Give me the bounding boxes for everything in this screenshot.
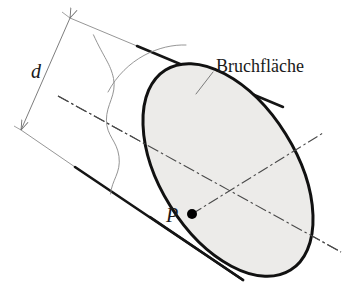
cylinder-bottom-edge-thin — [21, 130, 75, 167]
dimension-extension-bottom — [14, 126, 21, 130]
fracture-surface-label: Bruchfläche — [216, 56, 304, 76]
diameter-dimension: d — [14, 12, 70, 130]
dimension-extension-top — [62, 12, 70, 18]
cylinder-top-edge-thin — [70, 18, 137, 46]
figure-canvas: P d Bruchfläche — [0, 0, 347, 307]
diameter-label: d — [31, 60, 42, 82]
fracture-surface-diagram: P d Bruchfläche — [0, 0, 347, 307]
dimension-line-d — [21, 18, 70, 130]
point-p-marker — [187, 209, 197, 219]
point-p-label: P — [165, 204, 178, 226]
break-line — [93, 34, 121, 195]
